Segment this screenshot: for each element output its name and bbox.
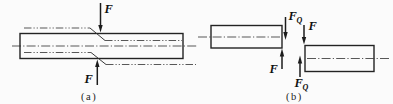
applied-force-label-top-right: F — [308, 19, 318, 33]
force-label-top: F — [104, 2, 114, 16]
panel-a-caption: (a) — [81, 91, 97, 103]
panel-a: F F (a) — [12, 2, 197, 103]
shear-plane-top-diagonal — [90, 28, 105, 41]
force-arrow-up — [95, 60, 99, 86]
figure-canvas: F F (a) — [0, 0, 393, 104]
applied-force-down-head — [302, 37, 306, 45]
shear-diagram-figure: F F (a) — [0, 0, 393, 104]
force-arrow-down — [98, 3, 102, 33]
shear-force-down-head — [283, 32, 287, 40]
applied-force-arrow-down — [302, 25, 306, 45]
force-label-bottom: F — [84, 72, 94, 86]
applied-force-up-head — [280, 49, 284, 57]
applied-force-arrow-up — [280, 49, 284, 70]
shear-force-up-head — [298, 56, 302, 64]
shear-label-top-subscript: Q — [297, 16, 303, 25]
applied-force-label-bottom-left: F — [269, 62, 279, 76]
shear-force-arrow-up — [298, 56, 302, 78]
panel-b-caption: (b) — [286, 91, 303, 103]
force-arrow-down-head — [98, 25, 102, 33]
shear-force-arrow-down — [283, 17, 287, 40]
force-arrow-up-head — [95, 60, 99, 68]
panel-b: F Q F F F Q (b) — [198, 9, 389, 103]
shear-label-bottom-subscript: Q — [303, 83, 309, 92]
